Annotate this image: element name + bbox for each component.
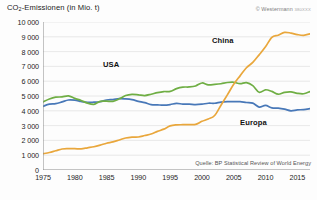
x-tick-label: 1990 (131, 173, 147, 182)
title-suffix: -Emissionen (in Mio. t) (22, 3, 100, 12)
y-tick-label: 4 000 (22, 106, 40, 115)
chart-canvas (43, 22, 310, 170)
x-tick-label: 2015 (289, 173, 305, 182)
chart-figure: CO2-Emissionen (in Mio. t) © Westermann … (0, 0, 317, 200)
x-tick-label: 1975 (35, 173, 51, 182)
y-tick-label: 7 000 (22, 62, 40, 71)
title-subscript: 2 (19, 6, 22, 12)
x-tick-label: 1995 (162, 173, 178, 182)
series-label-china: China (212, 36, 234, 45)
series-line-usa (43, 82, 310, 104)
copyright-text: © Westermann (256, 6, 293, 12)
source-note: Quelle: BP Statistical Review of World E… (195, 160, 311, 166)
series-label-europa: Europa (240, 118, 267, 127)
series-label-usa: USA (103, 60, 119, 69)
y-tick-label: 2 000 (22, 136, 40, 145)
y-tick-label: 5 000 (22, 92, 40, 101)
copyright-notice: © Westermann 380XXX (256, 6, 311, 12)
y-tick-label: 8 000 (22, 47, 40, 56)
copyright-code: 380XXX (294, 7, 311, 12)
x-tick-label: 2005 (226, 173, 242, 182)
x-tick-label: 2010 (258, 173, 274, 182)
series-line-china (43, 32, 310, 153)
title-prefix: CO (7, 3, 19, 12)
y-tick-label: 3 000 (22, 121, 40, 130)
x-tick-label: 1985 (99, 173, 115, 182)
y-tick-label: 9 000 (22, 32, 40, 41)
y-tick-label: 6 000 (22, 77, 40, 86)
y-tick-label: 10 000 (18, 18, 39, 27)
x-tick-label: 1980 (67, 173, 83, 182)
plot-area: 01 0002 0003 0004 0005 0006 0007 0008 00… (43, 22, 310, 170)
y-tick-label: 1 000 (22, 151, 40, 160)
page-title: CO2-Emissionen (in Mio. t) (7, 3, 100, 12)
data-series-group (43, 32, 310, 153)
x-tick-label: 2000 (194, 173, 210, 182)
